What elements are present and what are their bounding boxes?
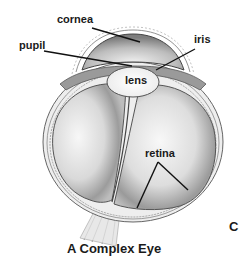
- lens-label: lens: [125, 75, 147, 86]
- eye-diagram: cornea pupil iris lens retina C A Comple…: [0, 0, 251, 266]
- panel-letter: C: [229, 220, 238, 233]
- iris-label: iris: [194, 34, 211, 45]
- pupil-label: pupil: [19, 40, 45, 51]
- figure-caption: A Complex Eye: [67, 242, 161, 255]
- cornea-label: cornea: [57, 14, 93, 25]
- retina-label: retina: [145, 148, 175, 159]
